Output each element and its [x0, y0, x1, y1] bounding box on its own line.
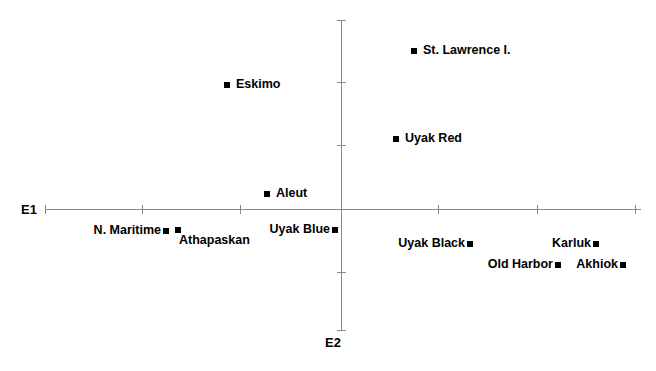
- x-axis-tick: [240, 205, 241, 214]
- data-point-marker[interactable]: [620, 262, 626, 268]
- x-axis-tick: [438, 205, 439, 214]
- y-axis-tick: [337, 82, 346, 83]
- data-point-label: Karluk: [552, 237, 591, 250]
- data-point-label: Uyak Black: [398, 237, 465, 250]
- data-point-marker[interactable]: [467, 241, 473, 247]
- y-axis-tick: [337, 20, 346, 21]
- data-point-label: Athapaskan: [179, 234, 250, 247]
- data-point-marker[interactable]: [163, 228, 169, 234]
- data-point-label: St. Lawrence I.: [423, 44, 511, 57]
- x-axis-line: [45, 209, 641, 210]
- x-axis-tick: [45, 205, 46, 214]
- x-axis-tick: [142, 205, 143, 214]
- data-point-label: Aleut: [276, 187, 307, 200]
- data-point-marker[interactable]: [555, 262, 561, 268]
- x-axis-tick: [635, 205, 636, 214]
- data-point-marker[interactable]: [593, 241, 599, 247]
- y-axis-tick: [337, 145, 346, 146]
- x-axis-label: E1: [21, 202, 37, 217]
- data-point-marker[interactable]: [264, 191, 270, 197]
- y-axis-tick: [337, 272, 346, 273]
- data-point-marker[interactable]: [332, 227, 338, 233]
- data-point-label: Uyak Blue: [270, 223, 330, 236]
- y-axis-label: E2: [325, 335, 341, 350]
- scatter-plot: E1 E2 St. Lawrence I.EskimoUyak RedAleut…: [0, 0, 656, 371]
- data-point-marker[interactable]: [411, 48, 417, 54]
- data-point-marker[interactable]: [224, 82, 230, 88]
- y-axis-tick: [337, 330, 346, 331]
- x-axis-tick: [537, 205, 538, 214]
- data-point-label: N. Maritime: [94, 224, 161, 237]
- data-point-marker[interactable]: [393, 136, 399, 142]
- data-point-label: Old Harbor: [488, 258, 553, 271]
- data-point-label: Eskimo: [236, 78, 280, 91]
- data-point-label: Akhiok: [576, 258, 618, 271]
- data-point-label: Uyak Red: [405, 132, 462, 145]
- y-axis-line: [341, 20, 342, 330]
